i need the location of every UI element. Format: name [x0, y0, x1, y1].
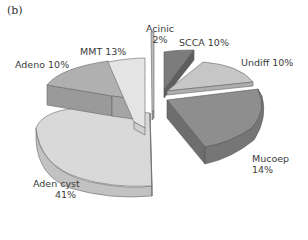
label-scca: SCCA 10%: [179, 37, 229, 48]
label-acinic-name: Acinic: [146, 23, 174, 34]
label-mmt: MMT 13%: [80, 46, 126, 57]
label-acinic-pct: 2%: [146, 34, 174, 45]
label-mucoep: Mucoep 14%: [252, 153, 289, 175]
label-mucoep-pct: 14%: [252, 164, 289, 175]
label-mucoep-name: Mucoep: [252, 153, 289, 164]
label-undiff: Undiff 10%: [241, 57, 293, 68]
label-aden-cyst: Aden cyst 41%: [33, 178, 80, 200]
label-aden-cyst-name: Aden cyst: [33, 178, 80, 189]
slice-acinic: [151, 32, 154, 120]
slice-mucoep: [167, 89, 264, 164]
label-acinic: Acinic 2%: [146, 23, 174, 45]
label-aden-cyst-pct: 41%: [33, 189, 80, 200]
label-adeno: Adeno 10%: [15, 59, 69, 70]
